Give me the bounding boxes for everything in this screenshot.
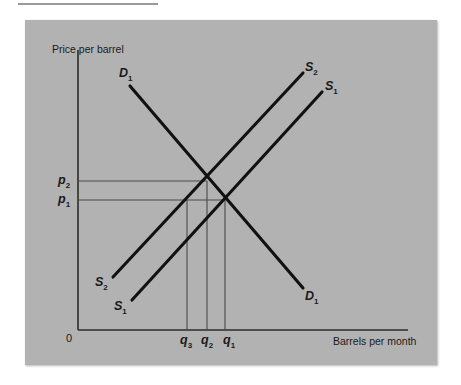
quantity-label-q3-base: q	[180, 333, 188, 347]
supply-curve-s2	[113, 73, 303, 277]
supply1-label-top: S1	[325, 80, 338, 96]
origin-label: 0	[66, 333, 72, 344]
demand-label-top-sub: 1	[128, 74, 132, 83]
supply1-label-top-sub: 1	[333, 87, 337, 96]
price-label-p2: p2	[58, 174, 70, 190]
figure-root: Price per barrel Barrels per month 0 p2 …	[0, 0, 461, 385]
price-label-p1: p1	[58, 193, 70, 209]
y-axis-title: Price per barrel	[52, 44, 124, 55]
price-label-p1-base: p	[58, 192, 66, 206]
supply1-label-bottom-sub: 1	[122, 307, 126, 316]
demand-label-bottom: D1	[305, 290, 318, 306]
demand-label-bottom-base: D	[305, 289, 314, 303]
quantity-label-q2-base: q	[201, 333, 209, 347]
price-label-p2-sub: 2	[66, 181, 70, 190]
supply2-label-top: S2	[305, 61, 318, 77]
quantity-label-q1-base: q	[223, 333, 231, 347]
quantity-label-q3: q3	[180, 334, 192, 350]
demand-label-bottom-sub: 1	[314, 297, 318, 306]
quantity-label-q3-sub: 3	[188, 341, 192, 350]
price-label-p1-sub: 1	[66, 200, 70, 209]
price-label-p2-base: p	[58, 173, 66, 187]
supply2-label-bottom: S2	[95, 276, 108, 292]
quantity-label-q1: q1	[223, 334, 235, 350]
quantity-label-q2-sub: 2	[209, 341, 213, 350]
supply2-label-bottom-sub: 2	[103, 283, 107, 292]
demand-curve-d1	[130, 86, 303, 288]
supply1-label-bottom: S1	[114, 300, 127, 316]
supply2-label-top-sub: 2	[313, 68, 317, 77]
demand-label-top-base: D	[119, 66, 128, 80]
quantity-label-q2: q2	[201, 334, 213, 350]
quantity-label-q1-sub: 1	[231, 341, 235, 350]
x-axis-title: Barrels per month	[333, 336, 416, 347]
demand-label-top: D1	[119, 67, 132, 83]
